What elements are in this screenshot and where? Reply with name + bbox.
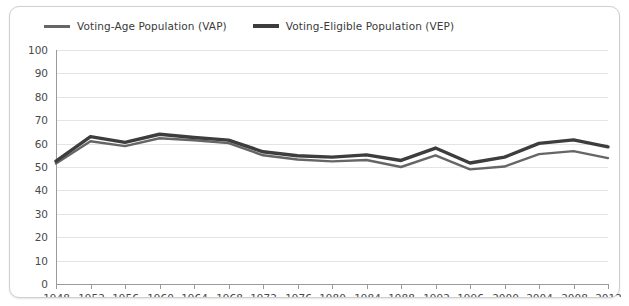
line-chart-svg: 0102030405060708090100 19481952195619601…	[10, 35, 621, 297]
x-axis-tick-label: 1960	[147, 292, 174, 297]
x-axis-tick-label: 2004	[526, 292, 553, 297]
x-axis-tick-label: 1996	[457, 292, 484, 297]
x-axis-tick-label: 1968	[216, 292, 243, 297]
plot-area: 0102030405060708090100 19481952195619601…	[10, 35, 621, 297]
x-axis-tick-label: 2000	[492, 292, 519, 297]
x-axis-tick-label: 1988	[388, 292, 415, 297]
x-axis-tick-label: 1956	[112, 292, 139, 297]
chart-legend: Voting-Age Population (VAP) Voting-Eligi…	[10, 15, 619, 37]
legend-swatch-vep-icon	[253, 24, 279, 28]
x-axis-tick-label: 1984	[354, 292, 381, 297]
y-axis-tick-label: 100	[28, 44, 48, 56]
y-axis-tick-label: 50	[35, 161, 48, 173]
series-line-vap	[56, 138, 608, 169]
x-axis-tick-label: 1948	[43, 292, 70, 297]
x-axis-tick-label: 1964	[181, 292, 208, 297]
y-axis-tick-label: 10	[35, 255, 48, 267]
y-axis-tick-label: 60	[35, 138, 48, 150]
y-axis-tick-label: 0	[41, 278, 48, 290]
x-axis-tick-label: 2008	[561, 292, 588, 297]
y-axis-tick-label: 70	[35, 114, 48, 126]
y-axis-tick-label: 90	[35, 67, 48, 79]
y-axis-tick-label: 80	[35, 91, 48, 103]
x-axis-tick-label: 1992	[423, 292, 450, 297]
x-axis-tick-label: 1976	[285, 292, 312, 297]
y-axis-tick-label: 30	[35, 208, 48, 220]
x-axis-tick-label: 1972	[250, 292, 277, 297]
legend-item-vap: Voting-Age Population (VAP)	[44, 20, 227, 32]
x-axis-tick-label: 2012	[595, 292, 621, 297]
legend-label-vap: Voting-Age Population (VAP)	[77, 20, 227, 32]
legend-item-vep: Voting-Eligible Population (VEP)	[253, 20, 454, 32]
x-axis-labels-group: 1948195219561960196419681972197619801984…	[43, 292, 621, 297]
y-axis-tick-label: 40	[35, 184, 48, 196]
y-axis-tick-label: 20	[35, 231, 48, 243]
series-group	[56, 134, 608, 169]
chart-card: Voting-Age Population (VAP) Voting-Eligi…	[9, 6, 620, 298]
legend-swatch-vap-icon	[44, 25, 70, 28]
x-axis-tick-label: 1980	[319, 292, 346, 297]
x-axis-tick-label: 1952	[78, 292, 105, 297]
y-axis-labels-group: 0102030405060708090100	[28, 44, 48, 290]
legend-label-vep: Voting-Eligible Population (VEP)	[286, 20, 454, 32]
